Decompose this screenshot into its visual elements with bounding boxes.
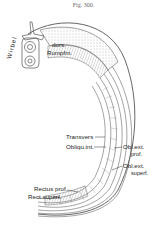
label-rectus-prof: Rectus prof. bbox=[34, 186, 67, 192]
label-obl-ext-prof: Obl.ext. bbox=[123, 144, 144, 150]
label-obl-ext-superf: Obl.ext. bbox=[123, 163, 144, 169]
label-rumpfm: Rumpfm. bbox=[47, 50, 72, 56]
vertebra bbox=[22, 22, 44, 68]
label-rect-superf: Rect.superf. bbox=[28, 194, 61, 200]
label-dors: dors. bbox=[52, 42, 66, 48]
body-wall-cross-section-drawing bbox=[0, 0, 167, 230]
label-transversus: Transvers bbox=[66, 134, 93, 140]
obl-ext-prof-leader bbox=[114, 147, 122, 148]
obl-ext-superf-leader bbox=[112, 166, 122, 170]
label-obliqu-int: Obliqu.int. bbox=[66, 144, 94, 150]
label-obl-ext-prof-2: prof. bbox=[131, 152, 142, 158]
label-obl-ext-superf-2: superf. bbox=[131, 171, 148, 177]
